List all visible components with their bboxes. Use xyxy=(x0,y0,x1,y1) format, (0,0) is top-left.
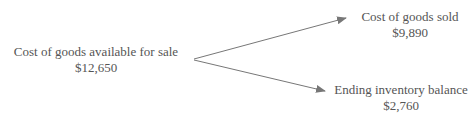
arrow-to-inventory xyxy=(194,60,325,91)
cogs-node: Cost of goods sold $9,890 xyxy=(350,9,470,41)
inventory-node: Ending inventory balance $2,760 xyxy=(326,82,476,114)
inventory-value: $2,760 xyxy=(326,98,476,114)
cogs-value: $9,890 xyxy=(350,25,470,41)
arrow-to-cogs xyxy=(194,18,346,59)
source-value: $12,650 xyxy=(6,60,186,76)
source-node: Cost of goods available for sale $12,650 xyxy=(6,44,186,76)
source-label: Cost of goods available for sale xyxy=(6,44,186,60)
cogs-label: Cost of goods sold xyxy=(350,9,470,25)
inventory-label: Ending inventory balance xyxy=(326,82,476,98)
